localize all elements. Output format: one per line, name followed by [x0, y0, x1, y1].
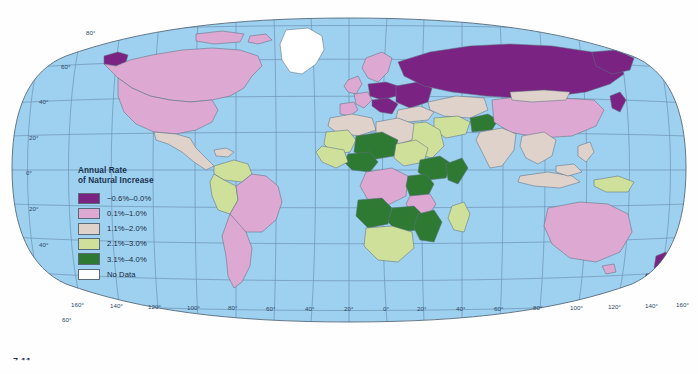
longitude-label-120e: 120°	[608, 303, 621, 310]
legend-label-high: 3.1%–4.0%	[107, 255, 147, 264]
latitude-label-60s: 60°	[62, 316, 72, 323]
longitude-label-140e: 140°	[645, 302, 658, 309]
longitude-label-60w: 60°	[266, 305, 276, 312]
longitude-label-100w: 100°	[187, 304, 200, 311]
legend-item-very-low: 0.1%–1.0%	[78, 206, 196, 221]
latitude-label-60n: 60°	[61, 63, 71, 70]
legend-title-line2: of Natural Increase	[78, 176, 196, 186]
legend-item-low: 1.1%–2.0%	[78, 221, 196, 236]
legend-label-decline: −0.6%–0.0%	[107, 194, 151, 203]
legend-swatch-moderate	[78, 238, 100, 250]
region-arctic-islands	[196, 31, 244, 44]
longitude-label-100e: 100°	[570, 304, 583, 311]
legend-label-very-low: 0.1%–1.0%	[107, 209, 147, 218]
latitude-label-80n: 80°	[86, 29, 96, 36]
legend-label-low: 1.1%–2.0%	[107, 224, 147, 233]
longitude-label-140w: 140°	[110, 302, 123, 309]
longitude-label-160e: 160°	[676, 301, 689, 308]
latitude-label-40s: 40°	[39, 241, 49, 248]
legend-label-moderate: 2.1%–3.0%	[107, 239, 147, 248]
legend-swatch-no-data	[78, 269, 100, 281]
legend-label-no-data: No Data	[107, 270, 136, 279]
longitude-label-40e: 40°	[456, 305, 466, 312]
longitude-label-0: 0°	[383, 305, 389, 312]
longitude-label-80e: 80°	[533, 304, 543, 311]
longitude-label-20e: 20°	[417, 305, 427, 312]
longitude-label-120w: 120°	[148, 303, 161, 310]
legend-swatch-decline	[78, 193, 100, 205]
longitude-label-20w: 20°	[344, 305, 354, 312]
region-mongolia	[510, 90, 570, 102]
latitude-label-20s: 20°	[29, 205, 39, 212]
map-legend: Annual Rate of Natural Increase −0.6%–0.…	[78, 166, 196, 282]
legend-item-high: 3.1%–4.0%	[78, 252, 196, 267]
region-new-zealand-south	[644, 272, 660, 288]
legend-swatch-low	[78, 223, 100, 235]
map-page: 80° 60° 40° 20° 0° 20° 40° 60° 160° 140°…	[0, 0, 698, 374]
legend-item-decline: −0.6%–0.0%	[78, 191, 196, 206]
longitude-label-80w: 80°	[228, 304, 238, 311]
latitude-label-40n: 40°	[39, 98, 49, 105]
latitude-label-0: 0°	[26, 169, 32, 176]
legend-swatch-very-low	[78, 208, 100, 220]
legend-swatch-high	[78, 253, 100, 265]
longitude-label-160w: 160°	[71, 301, 84, 308]
page-number: 7.11	[13, 356, 31, 366]
legend-item-moderate: 2.1%–3.0%	[78, 236, 196, 251]
longitude-label-40w: 40°	[305, 305, 315, 312]
legend-title-line1: Annual Rate	[78, 166, 196, 176]
longitude-label-60e: 60°	[494, 305, 504, 312]
latitude-label-20n: 20°	[29, 134, 39, 141]
legend-title: Annual Rate of Natural Increase	[78, 166, 196, 187]
legend-item-no-data: No Data	[78, 267, 196, 282]
